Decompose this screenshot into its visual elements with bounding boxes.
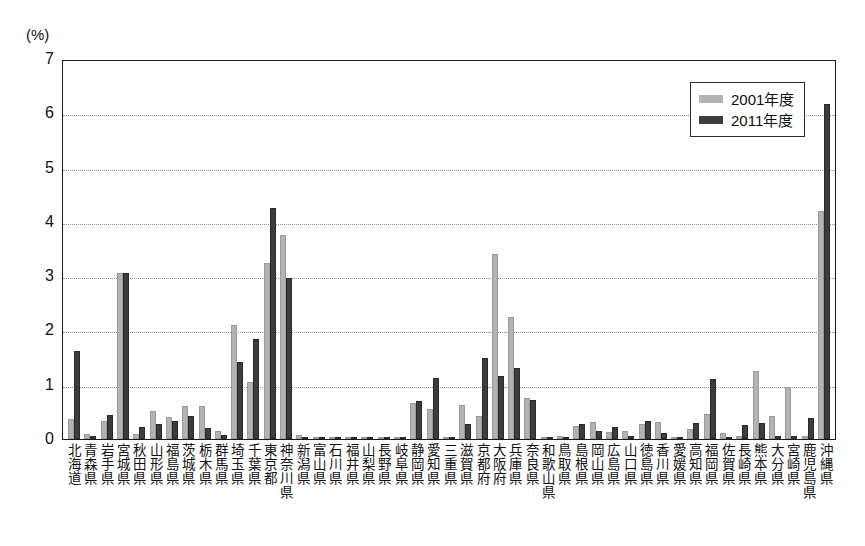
bar-group bbox=[131, 61, 147, 439]
bar-2011 bbox=[221, 435, 227, 439]
bar-group bbox=[327, 61, 343, 439]
x-tick-label: 静岡県 bbox=[408, 443, 424, 543]
bar-group bbox=[359, 61, 375, 439]
x-tick-label-text: 鹿児島県 bbox=[801, 443, 817, 543]
bar-2011 bbox=[677, 437, 683, 439]
bar-2011 bbox=[645, 421, 651, 439]
bar-2011 bbox=[759, 423, 765, 439]
bar-2011 bbox=[400, 437, 406, 439]
bar-group bbox=[522, 61, 538, 439]
bar-group bbox=[392, 61, 408, 439]
bar-group bbox=[164, 61, 180, 439]
x-tick-label: 茨城県 bbox=[179, 443, 195, 543]
y-tick-2: 2 bbox=[26, 321, 54, 339]
x-tick-label-text: 北海道 bbox=[65, 443, 81, 543]
x-tick-label-text: 佐賀県 bbox=[719, 443, 735, 543]
bar-2011 bbox=[775, 436, 781, 439]
x-tick-label-text: 茨城県 bbox=[180, 443, 196, 543]
bar-2011 bbox=[514, 368, 520, 439]
chart-root: (%) 76543210 2001年度2011年度 北海道青森県岩手県宮城県秋田… bbox=[0, 0, 865, 546]
x-axis-tick-labels: 北海道青森県岩手県宮城県秋田県山形県福島県茨城県栃木県群馬県埼玉県千葉県東京都神… bbox=[62, 443, 836, 543]
bar-2011 bbox=[123, 273, 129, 439]
x-tick-label-text: 奈良県 bbox=[523, 443, 539, 543]
x-tick-label: 鹿児島県 bbox=[800, 443, 816, 543]
x-tick-label: 千葉県 bbox=[245, 443, 261, 543]
bar-2001 bbox=[785, 387, 791, 439]
x-tick-label: 愛知県 bbox=[425, 443, 441, 543]
bar-group bbox=[213, 61, 229, 439]
bar-group bbox=[653, 61, 669, 439]
x-tick-label: 鳥取県 bbox=[555, 443, 571, 543]
x-tick-label: 宮崎県 bbox=[784, 443, 800, 543]
bar-2011 bbox=[547, 437, 553, 439]
bar-group bbox=[604, 61, 620, 439]
bar-2011 bbox=[319, 437, 325, 439]
bar-2011 bbox=[367, 437, 373, 439]
x-tick-label: 山口県 bbox=[621, 443, 637, 543]
x-tick-label: 長野県 bbox=[376, 443, 392, 543]
bar-2011 bbox=[172, 421, 178, 439]
x-tick-label-text: 山形県 bbox=[147, 443, 163, 543]
bar-2011 bbox=[465, 424, 471, 439]
x-tick-label: 秋田県 bbox=[130, 443, 146, 543]
bar-2011 bbox=[107, 415, 113, 439]
x-tick-label: 香川県 bbox=[653, 443, 669, 543]
x-tick-label-text: 福島県 bbox=[163, 443, 179, 543]
bar-2011 bbox=[449, 437, 455, 439]
x-tick-label: 高知県 bbox=[686, 443, 702, 543]
x-tick-label: 長崎県 bbox=[735, 443, 751, 543]
y-axis-unit-label: (%) bbox=[26, 26, 49, 43]
x-tick-label-text: 静岡県 bbox=[409, 443, 425, 543]
bar-group bbox=[99, 61, 115, 439]
legend-swatch-icon bbox=[699, 95, 723, 103]
bar-2011 bbox=[270, 208, 276, 439]
x-tick-label-text: 長野県 bbox=[376, 443, 392, 543]
x-tick-label: 兵庫県 bbox=[506, 443, 522, 543]
x-tick-label-text: 宮崎県 bbox=[785, 443, 801, 543]
bar-2011 bbox=[482, 358, 488, 439]
legend-item-2011年度: 2011年度 bbox=[699, 109, 794, 130]
x-tick-label-text: 青森県 bbox=[82, 443, 98, 543]
bar-group bbox=[620, 61, 636, 439]
bar-group bbox=[180, 61, 196, 439]
x-tick-label: 島根県 bbox=[572, 443, 588, 543]
x-tick-label: 福井県 bbox=[343, 443, 359, 543]
x-tick-label-text: 岡山県 bbox=[588, 443, 604, 543]
chart-legend: 2001年度2011年度 bbox=[690, 82, 805, 137]
bar-2011 bbox=[661, 433, 667, 440]
x-tick-label-text: 岐阜県 bbox=[392, 443, 408, 543]
bar-2011 bbox=[824, 104, 830, 439]
x-tick-label-text: 大分県 bbox=[768, 443, 784, 543]
x-tick-label-text: 石川県 bbox=[327, 443, 343, 543]
x-tick-label-text: 新潟県 bbox=[294, 443, 310, 543]
bar-2011 bbox=[579, 424, 585, 439]
x-tick-label: 神奈川県 bbox=[277, 443, 293, 543]
legend-swatch-icon bbox=[699, 116, 723, 124]
x-tick-label-text: 富山県 bbox=[311, 443, 327, 543]
bar-group bbox=[376, 61, 392, 439]
bar-group bbox=[425, 61, 441, 439]
bar-group bbox=[229, 61, 245, 439]
bar-2011 bbox=[139, 427, 145, 439]
x-tick-label: 三重県 bbox=[441, 443, 457, 543]
bar-group bbox=[262, 61, 278, 439]
bar-2011 bbox=[612, 427, 618, 439]
x-tick-label: 滋賀県 bbox=[457, 443, 473, 543]
x-tick-label-text: 京都府 bbox=[474, 443, 490, 543]
bar-2011 bbox=[710, 379, 716, 439]
bar-group bbox=[490, 61, 506, 439]
bar-2011 bbox=[791, 436, 797, 439]
y-tick-7: 7 bbox=[26, 50, 54, 68]
bar-2011 bbox=[498, 376, 504, 440]
y-tick-6: 6 bbox=[26, 104, 54, 122]
bar-group bbox=[539, 61, 555, 439]
x-tick-label-text: 大阪府 bbox=[490, 443, 506, 543]
x-tick-label-text: 福井県 bbox=[343, 443, 359, 543]
x-tick-label: 群馬県 bbox=[212, 443, 228, 543]
bar-group bbox=[441, 61, 457, 439]
x-tick-label-text: 広島県 bbox=[605, 443, 621, 543]
x-tick-label: 愛媛県 bbox=[670, 443, 686, 543]
x-tick-label: 大阪府 bbox=[490, 443, 506, 543]
x-tick-label: 福島県 bbox=[163, 443, 179, 543]
bar-group bbox=[115, 61, 131, 439]
